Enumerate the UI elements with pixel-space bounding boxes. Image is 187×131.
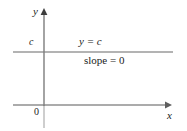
x-axis-arrowhead bbox=[165, 102, 172, 109]
constant-function-figure: y x c 0 y = c slope = 0 bbox=[0, 0, 187, 131]
equation-label: y = c bbox=[79, 36, 102, 47]
x-axis-label: x bbox=[167, 110, 172, 121]
slope-label: slope = 0 bbox=[84, 55, 124, 66]
y-axis-tick-label-c: c bbox=[29, 37, 33, 47]
y-axis-arrowhead bbox=[41, 8, 48, 15]
origin-label: 0 bbox=[34, 107, 39, 117]
y-axis-label: y bbox=[33, 6, 38, 17]
